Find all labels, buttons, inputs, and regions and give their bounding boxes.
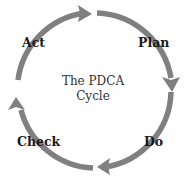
stage-check-label: Check: [17, 134, 60, 149]
arrowhead-left-icon: [97, 158, 110, 175]
stage-act-label: Act: [22, 35, 45, 50]
stage-do-label: Do: [144, 134, 163, 149]
arrowhead-up-icon: [8, 97, 25, 110]
diagram-title: The PDCA Cycle: [53, 74, 133, 104]
arrowhead-down-icon: [162, 77, 180, 92]
arrowhead-right-icon: [78, 5, 92, 22]
diagram-title-line1: The PDCA: [53, 74, 133, 89]
diagram-title-line2: Cycle: [53, 89, 133, 104]
stage-plan-label: Plan: [138, 35, 169, 50]
